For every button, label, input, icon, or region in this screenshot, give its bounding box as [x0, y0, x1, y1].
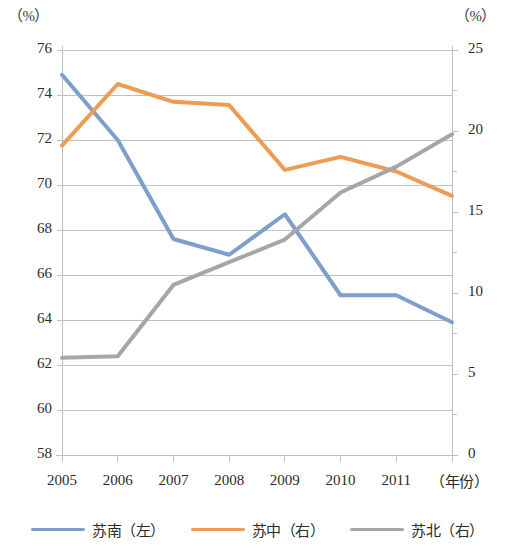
x-axis-tick-label: 2008 [203, 472, 255, 489]
left-axis-tick-label: 64 [14, 310, 52, 327]
right-axis-tick-label: 15 [468, 202, 506, 219]
x-axis-tick-label: 2011 [370, 472, 422, 489]
legend-color-swatch [31, 528, 85, 531]
x-axis-tick-label: 2006 [92, 472, 144, 489]
right-axis-tick-label: 0 [468, 445, 506, 462]
legend-item[interactable]: 苏北（右） [350, 519, 484, 540]
legend-label: 苏南（左） [92, 519, 165, 540]
left-axis-tick-label: 70 [14, 175, 52, 192]
x-axis-tick-label: 2010 [315, 472, 367, 489]
x-axis-tick-label: 2005 [36, 472, 88, 489]
legend-label: 苏北（右） [411, 519, 484, 540]
chart-canvas [0, 0, 515, 548]
series-line-苏北（右） [62, 134, 452, 358]
left-axis-tick-label: 74 [14, 85, 52, 102]
plot-area [0, 0, 515, 548]
series-line-苏南（左） [62, 75, 452, 323]
left-axis-tick-label: 66 [14, 265, 52, 282]
chart-legend: 苏南（左）苏中（右）苏北（右） [0, 512, 515, 546]
legend-item[interactable]: 苏中（右） [191, 519, 325, 540]
right-axis-tick-label: 10 [468, 283, 506, 300]
left-axis-tick-label: 76 [14, 40, 52, 57]
left-axis-tick-label: 60 [14, 400, 52, 417]
legend-color-swatch [191, 528, 245, 531]
x-axis-tick-label: 2007 [147, 472, 199, 489]
left-axis-tick-label: 68 [14, 220, 52, 237]
x-axis-title: （年份） [430, 470, 488, 491]
legend-label: 苏中（右） [252, 519, 325, 540]
left-axis-tick-label: 58 [14, 445, 52, 462]
left-axis-tick-label: 72 [14, 130, 52, 147]
right-axis-tick-label: 25 [468, 40, 506, 57]
legend-color-swatch [350, 528, 404, 531]
legend-item[interactable]: 苏南（左） [31, 519, 165, 540]
right-axis-tick-label: 20 [468, 121, 506, 138]
x-axis-tick-label: 2009 [259, 472, 311, 489]
right-axis-tick-label: 5 [468, 364, 506, 381]
left-axis-tick-label: 62 [14, 355, 52, 372]
chart-figure: （%） （%） 58606264666870727476 0510152025 … [0, 0, 515, 548]
